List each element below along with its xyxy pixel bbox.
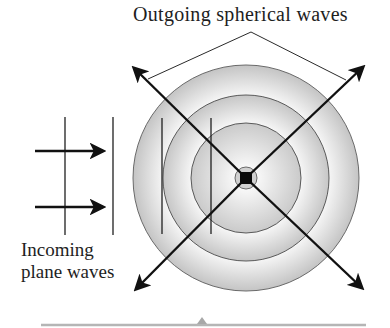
bottom-divider xyxy=(41,317,366,325)
scatterer-center-icon xyxy=(240,172,252,184)
divider-notch-icon xyxy=(197,317,207,324)
scattering-diagram xyxy=(0,0,390,328)
incoming-arrows xyxy=(35,151,103,207)
